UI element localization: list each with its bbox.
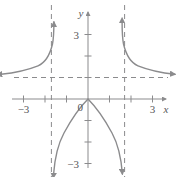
axes-group	[12, 12, 166, 168]
x-tick-label-3: 3	[150, 103, 156, 115]
origin-label: 0	[78, 101, 84, 113]
x-axis-label: x	[163, 103, 169, 115]
asymptotes-group	[14, 5, 168, 177]
y-tick-label-3: 3	[74, 29, 80, 41]
curve-left-branch	[1, 22, 54, 74]
curve-right-branch	[122, 22, 175, 74]
x-tick-label--3: −3	[18, 103, 30, 115]
plot-canvas: −3 3 3 −3 0 x y	[0, 0, 178, 177]
graph-figure: −3 3 3 −3 0 x y	[0, 0, 178, 177]
y-axis-label: y	[78, 7, 84, 19]
y-tick-label--3: −3	[67, 158, 79, 170]
